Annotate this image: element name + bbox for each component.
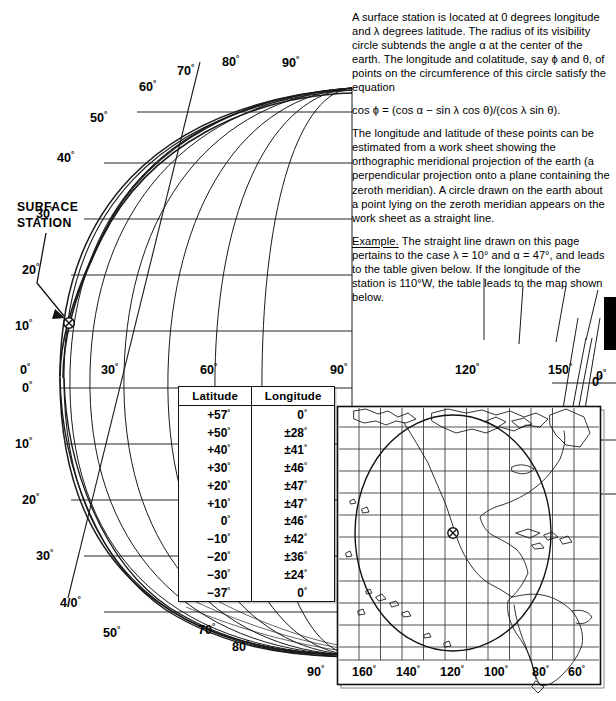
lat-label-10n: 10° [15, 317, 32, 333]
column-header-latitude: Latitude [179, 387, 252, 406]
lat-label-70n: 70° [177, 62, 194, 78]
paragraph-3: Example. The straight line drawn on this… [352, 234, 610, 304]
cell-latitude: +57° [179, 406, 252, 424]
cell-longitude: ±36° [252, 548, 334, 566]
paragraph-2: The longitude and latitude of these poin… [352, 126, 610, 224]
north-south-america-visibility-map: 160° 140° 120° 100° 80° 60° [336, 405, 608, 695]
cell-longitude: ±28° [252, 424, 334, 442]
map-lon-160: 160° [352, 664, 376, 679]
paragraph-1: A surface station is located at 0 degree… [352, 10, 610, 94]
figure-page: 0° 10° 20° 30° 40° 50° 60° 70° 80° 90° 1… [0, 0, 616, 701]
visibility-circle-curves [60, 90, 352, 378]
table-row: +20°±47° [179, 477, 334, 495]
cell-latitude: −20° [179, 548, 252, 566]
map-lon-100: 100° [484, 664, 508, 679]
lat-label-right-0: 0° [592, 373, 602, 389]
lat-label-10s: 10° [15, 435, 32, 451]
lat-label-80s: 80° [232, 638, 249, 654]
cell-longitude: ±46° [252, 459, 334, 477]
table-row: +40°±41° [179, 442, 334, 460]
map-lon-140: 140° [396, 664, 420, 679]
map-frame [338, 407, 601, 685]
table-row: −30°±24° [179, 566, 334, 584]
cell-latitude: +50° [179, 424, 252, 442]
lon-label-120: 120° [455, 361, 479, 377]
latitude-longitude-table: Latitude Longitude +57°0°+50°±28°+40°±41… [178, 386, 335, 602]
lat-label-50n: 50° [90, 109, 107, 125]
cell-longitude: ±24° [252, 566, 334, 584]
surface-station-line-1: SURFACE [17, 199, 137, 215]
lat-label-40n: 40° [57, 149, 74, 165]
table-row: +50°±28° [179, 424, 334, 442]
cell-latitude: +30° [179, 459, 252, 477]
cell-longitude: ±46° [252, 513, 334, 531]
lat-label-40s: 4/0° [60, 594, 81, 610]
lat-label-20n: 20° [22, 261, 39, 277]
surface-station-arrow [37, 233, 65, 319]
lat-label-50s: 50° [103, 624, 120, 640]
surface-station-annotation: SURFACE STATION [17, 199, 137, 231]
globe-longitude-labels: 0° 30° 60° 90° 120° 150° 0° [20, 361, 606, 383]
cell-latitude: +40° [179, 442, 252, 460]
cell-longitude: 0° [252, 406, 334, 424]
cell-longitude: ±47° [252, 477, 334, 495]
lat-label-70s: 70° [198, 621, 215, 637]
surface-station-marker [64, 318, 74, 328]
table-row: −37°0° [179, 584, 334, 602]
lon-label-30: 30° [101, 361, 118, 377]
lat-label-0: 0° [22, 379, 32, 395]
table-row: −10°±42° [179, 530, 334, 548]
lat-label-30s: 30° [36, 547, 53, 563]
map-lon-120: 120° [440, 664, 464, 679]
visibility-circle-equation: cos ϕ = (cos α − sin λ cos θ)/(cos λ sin… [352, 103, 610, 117]
cell-latitude: +10° [179, 495, 252, 513]
column-header-longitude: Longitude [252, 387, 334, 406]
table-header-row: Latitude Longitude [179, 387, 334, 406]
map-station-marker [448, 528, 458, 538]
lon-label-90: 90° [330, 361, 347, 377]
table-row: +10°±47° [179, 495, 334, 513]
example-label: Example. [352, 235, 399, 247]
table-row: +57°0° [179, 406, 334, 424]
cell-latitude: +20° [179, 477, 252, 495]
explanatory-text: A surface station is located at 0 degree… [352, 10, 610, 304]
table-row: +30°±46° [179, 459, 334, 477]
table-row: −20°±36° [179, 548, 334, 566]
lat-label-20s: 20° [22, 491, 39, 507]
lat-label-90n: 90° [282, 54, 299, 70]
table-row: 0°±46° [179, 513, 334, 531]
cell-longitude: ±41° [252, 442, 334, 460]
cell-latitude: 0° [179, 513, 252, 531]
lat-label-80n: 80° [222, 53, 239, 69]
cell-latitude: −37° [179, 584, 252, 602]
cell-longitude: 0° [252, 584, 334, 602]
cell-latitude: −30° [179, 566, 252, 584]
lat-label-90s: 90° [307, 663, 324, 679]
lon-label-0: 0° [20, 361, 30, 377]
cell-longitude: ±42° [252, 530, 334, 548]
page-edge-tab [604, 297, 616, 350]
lat-label-60n: 60° [139, 78, 156, 94]
surface-station-line-2: STATION [17, 215, 137, 231]
table-body: +57°0°+50°±28°+40°±41°+30°±46°+20°±47°+1… [179, 406, 334, 602]
cell-latitude: −10° [179, 530, 252, 548]
cell-longitude: ±47° [252, 495, 334, 513]
